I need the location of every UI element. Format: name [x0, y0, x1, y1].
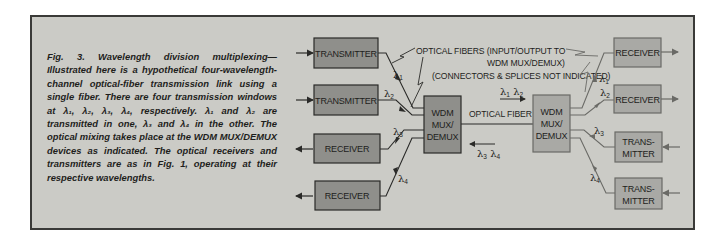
main-optical-fiber: OPTICAL FIBER λ1 λ2 λ3 λ4 [461, 86, 533, 160]
forward-lambdas: λ1 λ2 [500, 86, 524, 98]
left-wdm-mux-demux: WDM MUX/ DEMUX [424, 96, 461, 153]
right-wdm-mux-demux: WDM MUX/ DEMUX [533, 95, 570, 152]
svg-text:TRANSMITTER: TRANSMITTER [315, 49, 377, 59]
lambda-1-label: λ1 [393, 69, 403, 81]
svg-text:MITTER: MITTER [622, 196, 655, 206]
svg-text:MUX/: MUX/ [541, 119, 563, 129]
svg-text:WDM MUX/DEMUX): WDM MUX/DEMUX) [487, 58, 565, 68]
lambda-4-label: λ4 [398, 173, 408, 185]
left-transmitter-1: TRANSMITTER [314, 38, 378, 68]
right-lambda-2-label: λ2 [600, 87, 610, 99]
svg-text:(CONNECTORS & SPLICES NOT INDI: (CONNECTORS & SPLICES NOT INDICATED) [432, 71, 611, 81]
svg-text:WDM: WDM [432, 108, 454, 118]
left-receiver-1: RECEIVER [314, 134, 380, 163]
svg-text:OPTICAL FIBER: OPTICAL FIBER [469, 109, 532, 119]
svg-text:OPTICAL FIBERS (INPUT/OUTPUT T: OPTICAL FIBERS (INPUT/OUTPUT TO [416, 46, 566, 56]
right-receiver-2: RECEIVER [614, 85, 661, 113]
svg-text:DEMUX: DEMUX [427, 132, 459, 142]
right-transmitter-2: TRANS- MITTER [615, 178, 662, 209]
lambda-3-label: λ3 [393, 126, 403, 138]
svg-text:TRANSMITTER: TRANSMITTER [315, 96, 377, 106]
svg-text:RECEIVER: RECEIVER [615, 48, 660, 58]
svg-text:RECEIVER: RECEIVER [325, 191, 370, 201]
left-receiver-2: RECEIVER [315, 181, 380, 210]
left-transmitter-2: TRANSMITTER [314, 85, 378, 115]
svg-text:MUX/: MUX/ [432, 120, 454, 130]
right-lambda-3-label: λ3 [594, 125, 604, 137]
svg-text:RECEIVER: RECEIVER [615, 95, 660, 105]
svg-text:MITTER: MITTER [622, 149, 655, 159]
svg-text:DEMUX: DEMUX [536, 131, 568, 141]
right-lambda-4-label: λ4 [590, 172, 600, 184]
lambda-2-label: λ2 [384, 88, 394, 100]
left-terminal: TRANSMITTER TRANSMITTER RECEIVER RECEIVE… [296, 38, 461, 210]
right-receiver-1: RECEIVER [614, 38, 661, 67]
svg-text:TRANS-: TRANS- [622, 137, 655, 147]
svg-text:WDM: WDM [541, 107, 563, 117]
wdm-diagram: TRANSMITTER TRANSMITTER RECEIVER RECEIVE… [0, 0, 726, 242]
svg-text:TRANS-: TRANS- [622, 184, 655, 194]
right-transmitter-1: TRANS- MITTER [615, 132, 662, 162]
svg-text:RECEIVER: RECEIVER [325, 144, 370, 154]
reverse-lambdas: λ3 λ4 [477, 148, 501, 160]
